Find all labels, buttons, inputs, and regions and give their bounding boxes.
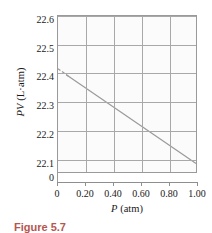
gridline-vertical [142,16,143,172]
data-series-layer [58,16,196,172]
gridline-vertical [114,16,115,172]
y-axis-tick-label: 22.2 [37,130,55,140]
x-axis-tick-label: 0.40 [104,188,122,200]
y-axis-tick-label: 22.6 [37,15,55,25]
x-axis-tick-labels: 00.200.400.600.801.00 [0,188,212,202]
gridline-horizontal [58,102,196,103]
x-axis-label-units: (atm) [120,203,143,214]
x-axis-tick-label: 0 [55,188,60,200]
gridline-horizontal [58,16,196,17]
x-axis-label: P (atm) [57,203,197,214]
x-axis-tick-mark [85,182,86,186]
y-axis-tick-label: 22.3 [37,101,55,111]
figure-caption: Figure 5.7 [14,221,66,233]
x-axis-tick-label: 0.60 [132,188,150,200]
x-axis-tick-label: 0.20 [76,188,94,200]
plot-area [57,15,197,173]
x-axis-tick-label: 1.00 [188,188,206,200]
y-axis-tick-label: 22.4 [37,72,55,82]
gridline-horizontal [58,45,196,46]
x-axis-tick-label: 0.80 [160,188,178,200]
y-axis-tick-label: 22.5 [37,44,55,54]
x-axis-tick-mark [197,182,198,186]
gridline-vertical [86,16,87,172]
x-axis-tick-mark [141,182,142,186]
gridline-horizontal [58,131,196,132]
gridline-horizontal [58,73,196,74]
x-axis-tick-mark [113,182,114,186]
x-axis-line [57,182,198,183]
y-axis-tick-label: 22.1 [37,159,55,169]
gridline-horizontal [58,160,196,161]
x-axis-tick-mark [57,182,58,186]
gridline-vertical [170,16,171,172]
y-axis-tick-labels: 22.122.222.322.422.522.6 [22,10,54,192]
figure-container: PV (L·atm) 22.122.222.322.422.522.6 0 00… [0,0,212,233]
x-axis-tick-mark [169,182,170,186]
y-axis-zero-label: 0 [22,173,54,183]
